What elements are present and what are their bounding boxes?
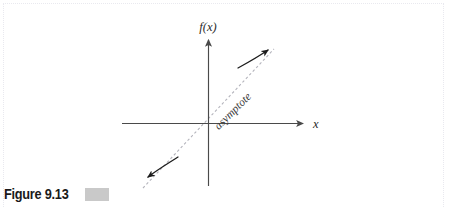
asymptote-label-text: asymptote [212,90,253,131]
y-axis-label: f(x) [199,20,216,34]
figure-canvas: f(x) x asymptote [0,0,449,207]
x-axis-label: x [312,117,319,131]
upper-branch-curve [238,50,268,68]
caption-swatch [85,188,109,201]
figure-caption: Figure 9.13 [4,184,109,204]
lower-branch-curve [148,157,178,177]
figure-page: f(x) x asymptote Figure 9.13 [0,0,449,207]
asymptote-label: asymptote [212,90,253,131]
figure-caption-label: Figure 9.13 [4,186,68,202]
